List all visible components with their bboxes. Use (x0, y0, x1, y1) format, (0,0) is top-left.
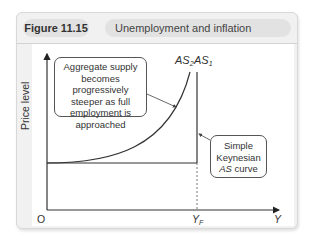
yf-label: YF (192, 213, 203, 226)
callout-text: employment is (55, 107, 146, 119)
callout-text: AS curve (211, 163, 266, 175)
callout-text: steeper as full (55, 96, 146, 108)
callout-simple-keynesian: Simple Keynesian AS curve (210, 135, 267, 178)
callout-text: Keynesian (211, 152, 266, 164)
as-italic: AS (219, 163, 232, 174)
curve-word: curve (232, 163, 258, 174)
as-diagram (0, 0, 314, 242)
callout-progressive-steepness: Aggregate supply becomes progressively s… (54, 57, 147, 117)
callout-text: approached (55, 119, 146, 131)
callout-text: becomes progressively (55, 73, 146, 96)
origin-label: O (37, 213, 45, 225)
callout-text: Simple (211, 140, 266, 152)
y-axis-label: Price level (19, 82, 31, 130)
x-axis-label: Y (274, 213, 281, 225)
as2-label: AS2 (175, 54, 194, 67)
as1-label: AS1 (194, 54, 213, 67)
callout-text: Aggregate supply (55, 61, 146, 73)
